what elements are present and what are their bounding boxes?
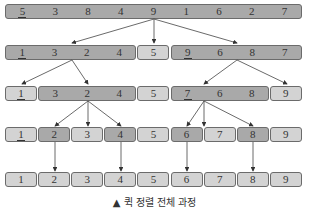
figure-caption: ▲ 퀵 정렬 전체 과정: [0, 194, 309, 209]
arrows-layer: [0, 0, 309, 209]
